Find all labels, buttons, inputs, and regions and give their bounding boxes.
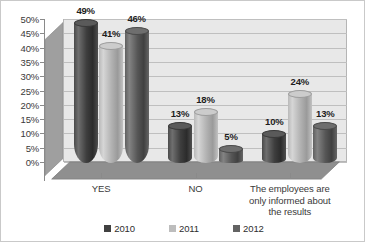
y-axis-tick-mark bbox=[40, 76, 45, 77]
chart-legend: 201020112012 bbox=[1, 220, 366, 236]
y-axis-tick-label: 45% bbox=[21, 28, 39, 39]
plot-area: 49%41%46%13%18%5%10%24%13% bbox=[45, 19, 347, 176]
y-axis-tick-mark bbox=[40, 91, 45, 92]
legend-label: 2011 bbox=[179, 223, 199, 234]
bar-2012-3 bbox=[313, 126, 337, 163]
bar-2011-3 bbox=[288, 94, 312, 163]
bar-body bbox=[288, 94, 312, 163]
y-axis-tick-label: 10% bbox=[21, 128, 39, 139]
bar-value-label: 10% bbox=[265, 116, 283, 127]
legend-item-2011[interactable]: 2011 bbox=[169, 223, 199, 234]
legend-item-2010[interactable]: 2010 bbox=[104, 223, 135, 234]
x-axis-category-label: NO bbox=[141, 183, 249, 195]
y-axis-tick-label: 5% bbox=[26, 142, 39, 153]
y-axis-tick-mark bbox=[40, 33, 45, 34]
bar-value-label: 13% bbox=[171, 108, 189, 119]
y-axis: 0%5%10%15%20%25%30%35%40%45%50% bbox=[1, 19, 45, 181]
y-axis-tick-label: 35% bbox=[21, 56, 39, 67]
y-axis-tick-mark bbox=[40, 162, 45, 163]
bar-2011-2 bbox=[194, 112, 218, 163]
bar-value-label: 18% bbox=[196, 94, 214, 105]
y-axis-tick-mark bbox=[40, 62, 45, 63]
y-axis-tick-label: 50% bbox=[21, 14, 39, 25]
bar-value-label: 41% bbox=[102, 28, 120, 39]
x-axis: YESNOThe employees are only informed abo… bbox=[45, 181, 347, 223]
bar-value-label: 49% bbox=[76, 5, 94, 16]
y-axis-tick-label: 0% bbox=[26, 157, 39, 168]
bar-body bbox=[99, 46, 123, 163]
bar-value-label: 13% bbox=[316, 108, 334, 119]
y-axis-tick-mark bbox=[40, 133, 45, 134]
y-axis-tick-label: 30% bbox=[21, 71, 39, 82]
bar-value-label: 24% bbox=[291, 76, 309, 87]
bar-cap bbox=[99, 42, 123, 50]
y-axis-tick-label: 25% bbox=[21, 85, 39, 96]
bar-cap bbox=[194, 108, 218, 116]
bar-body bbox=[125, 31, 149, 163]
legend-swatch-icon bbox=[104, 225, 111, 232]
bar-2010-3 bbox=[262, 134, 286, 163]
y-axis-tick-mark bbox=[40, 19, 45, 20]
x-axis-category-label: The employees are only informed about th… bbox=[236, 183, 344, 218]
bar-2012-2 bbox=[219, 149, 243, 163]
bar-value-label: 5% bbox=[224, 131, 237, 142]
bar-cap bbox=[219, 145, 243, 153]
y-axis-tick-mark bbox=[40, 148, 45, 149]
legend-swatch-icon bbox=[233, 225, 240, 232]
legend-label: 2012 bbox=[243, 223, 264, 234]
legend-swatch-icon bbox=[169, 225, 176, 232]
y-axis-tick-mark bbox=[40, 119, 45, 120]
bar-2012-1 bbox=[125, 31, 149, 163]
bar-body bbox=[262, 134, 286, 163]
bar-2010-1 bbox=[74, 23, 98, 163]
bar-cap bbox=[313, 122, 337, 130]
bars-layer: 49%41%46%13%18%5%10%24%13% bbox=[45, 19, 347, 181]
y-axis-tick-label: 15% bbox=[21, 114, 39, 125]
bar-2010-2 bbox=[168, 126, 192, 163]
x-axis-tick-mark bbox=[290, 173, 291, 179]
x-axis-tick-mark bbox=[196, 173, 197, 179]
bar-2011-1 bbox=[99, 46, 123, 163]
y-axis-tick-mark bbox=[40, 48, 45, 49]
y-axis-tick-label: 40% bbox=[21, 42, 39, 53]
legend-item-2012[interactable]: 2012 bbox=[233, 223, 264, 234]
bar-value-label: 46% bbox=[127, 13, 145, 24]
y-axis-tick-mark bbox=[40, 105, 45, 106]
y-axis-tick-label: 20% bbox=[21, 99, 39, 110]
legend-label: 2010 bbox=[114, 223, 135, 234]
bar-body bbox=[168, 126, 192, 163]
bar-cap bbox=[74, 19, 98, 27]
bar-body bbox=[313, 126, 337, 163]
bar-cap bbox=[168, 122, 192, 130]
chart-frame: 49%41%46%13%18%5%10%24%13% 0%5%10%15%20%… bbox=[0, 0, 365, 242]
bar-body bbox=[74, 23, 98, 163]
x-axis-category-label: YES bbox=[47, 183, 155, 195]
x-axis-tick-mark bbox=[101, 173, 102, 179]
bar-body bbox=[194, 112, 218, 163]
